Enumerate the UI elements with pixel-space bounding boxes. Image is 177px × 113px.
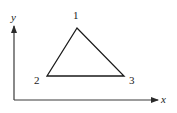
y-axis-label: y (10, 11, 16, 23)
vertex-2-label: 2 (34, 74, 40, 86)
vertex-3-label: 3 (129, 74, 135, 86)
triangle-diagram: y x 1 2 3 (0, 0, 177, 113)
vertex-1-label: 1 (73, 9, 79, 21)
triangle (47, 28, 124, 76)
x-axis-label: x (160, 93, 166, 105)
